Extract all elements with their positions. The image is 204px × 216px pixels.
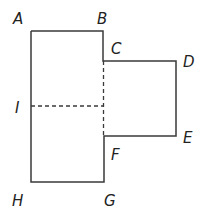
composite-figure-diagram: A B C D E F G H I — [0, 0, 204, 216]
label-h: H — [12, 192, 23, 210]
label-a: A — [12, 10, 23, 28]
label-f: F — [111, 146, 120, 164]
label-e: E — [183, 129, 193, 147]
label-i: I — [15, 99, 20, 117]
label-c: C — [111, 40, 122, 58]
label-b: B — [97, 10, 107, 28]
label-d: D — [183, 53, 195, 71]
label-g: G — [104, 192, 116, 210]
